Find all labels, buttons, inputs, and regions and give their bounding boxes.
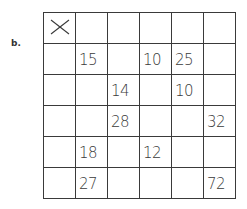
grid-cell xyxy=(172,168,204,199)
multiplication-grid: 15 10 25 14 10 28 32 18 12 27 72 xyxy=(43,12,236,199)
grid-row: 18 12 xyxy=(44,137,236,168)
grid-row: 28 32 xyxy=(44,106,236,137)
grid-cell: 72 xyxy=(204,168,236,199)
grid-corner-cell xyxy=(44,13,76,44)
grid-cell xyxy=(140,13,172,44)
grid-cell: 15 xyxy=(76,44,108,75)
grid-cell: 28 xyxy=(108,106,140,137)
grid-cell xyxy=(108,13,140,44)
grid-row: 14 10 xyxy=(44,75,236,106)
grid-cell xyxy=(76,13,108,44)
grid-cell: 32 xyxy=(204,106,236,137)
grid-cell xyxy=(76,106,108,137)
grid-cell xyxy=(44,168,76,199)
grid-cell xyxy=(44,75,76,106)
problem-label: b. xyxy=(11,38,21,48)
grid-row xyxy=(44,13,236,44)
grid-cell xyxy=(140,168,172,199)
grid-cell xyxy=(172,137,204,168)
grid-cell xyxy=(76,75,108,106)
grid-row: 27 72 xyxy=(44,168,236,199)
grid-cell xyxy=(108,44,140,75)
x-mark-icon xyxy=(50,19,70,35)
grid-cell xyxy=(140,75,172,106)
grid-row: 15 10 25 xyxy=(44,44,236,75)
grid-cell: 10 xyxy=(140,44,172,75)
grid-cell: 27 xyxy=(76,168,108,199)
grid-cell xyxy=(204,137,236,168)
grid-cell xyxy=(44,44,76,75)
grid-cell: 10 xyxy=(172,75,204,106)
grid-cell xyxy=(204,75,236,106)
grid-cell xyxy=(44,137,76,168)
grid-cell: 14 xyxy=(108,75,140,106)
grid-cell: 18 xyxy=(76,137,108,168)
grid-cell xyxy=(140,106,172,137)
grid-cell xyxy=(172,106,204,137)
grid-cell: 25 xyxy=(172,44,204,75)
grid-cell xyxy=(108,137,140,168)
grid-cell xyxy=(108,168,140,199)
grid-cell: 12 xyxy=(140,137,172,168)
grid-cell xyxy=(204,44,236,75)
grid-cell xyxy=(44,106,76,137)
grid-cell xyxy=(172,13,204,44)
grid-cell xyxy=(204,13,236,44)
